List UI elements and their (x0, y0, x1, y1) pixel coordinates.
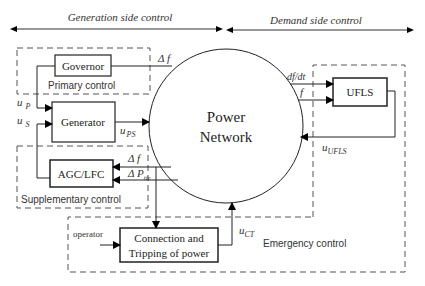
agc-lfc-label: AGC/LFC (58, 168, 104, 180)
demand-side-label: Demand side control (269, 14, 362, 26)
power-network-label-2: Network (200, 129, 253, 145)
delta-f-supp-label: Δ f (127, 152, 142, 164)
governor-label: Governor (62, 60, 104, 72)
generation-side-label: Generation side control (68, 11, 173, 23)
u-s-label: uS (17, 114, 30, 129)
ufls-label: UFLS (347, 86, 374, 98)
power-network-label-1: Power (207, 109, 245, 125)
delta-f-primary-label: Δ f (157, 52, 172, 64)
span-arrows (10, 26, 414, 33)
primary-control-label: Primary control (48, 80, 115, 91)
operator-label: operator (73, 229, 103, 239)
u-ufls-label: uUFLS (322, 141, 347, 156)
u-ct-label: uCT (239, 224, 255, 239)
control-diagram: Generation side control Demand side cont… (0, 0, 425, 286)
f-label: f (300, 86, 305, 98)
supplementary-control-label: Supplementary control (21, 194, 121, 205)
connection-label-2: Tripping of power (129, 247, 210, 259)
u-p-label: uP (17, 96, 31, 111)
connection-label-1: Connection and (134, 232, 204, 244)
emergency-control-label: Emergency control (263, 238, 346, 249)
u-ps-label: uPS (120, 124, 135, 139)
generator-label: Generator (61, 116, 105, 128)
dfdt-label: df/dt (287, 71, 306, 82)
